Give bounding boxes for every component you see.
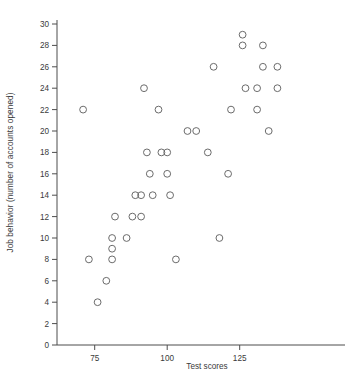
data-point-group	[80, 31, 281, 305]
data-point	[112, 213, 119, 220]
axes-group	[57, 20, 345, 345]
data-point	[80, 106, 87, 113]
y-tick-label: 16	[40, 170, 50, 179]
data-point	[164, 170, 171, 177]
y-tick-label: 6	[44, 277, 49, 286]
data-point	[141, 85, 148, 92]
data-point	[146, 170, 153, 177]
y-tick-label: 18	[40, 148, 50, 157]
data-point	[228, 106, 235, 113]
data-point	[204, 149, 211, 156]
x-axis-label: Test scores	[57, 362, 357, 371]
y-tick-label: 26	[40, 63, 50, 72]
data-point	[155, 106, 162, 113]
x-axis-label-text: Test scores	[186, 362, 227, 371]
data-point	[216, 235, 223, 242]
data-point	[144, 149, 151, 156]
data-point	[138, 213, 145, 220]
data-point	[167, 192, 174, 199]
data-point	[173, 256, 180, 263]
data-point	[149, 192, 156, 199]
data-point	[184, 128, 191, 135]
data-point	[109, 245, 116, 252]
y-tick-label: 10	[40, 234, 50, 243]
y-tick-group: 024681012141618202224262830	[40, 20, 57, 350]
scatter-plot-figure: Job behavior (number of accounts opened)…	[0, 0, 360, 389]
data-point	[254, 85, 261, 92]
data-point	[109, 235, 116, 242]
data-point	[109, 256, 116, 263]
y-tick-label: 30	[40, 20, 50, 29]
data-point	[242, 85, 249, 92]
data-point	[129, 213, 136, 220]
y-tick-label: 12	[40, 213, 50, 222]
data-point	[265, 128, 272, 135]
y-tick-label: 20	[40, 127, 50, 136]
data-point	[193, 128, 200, 135]
data-point	[210, 63, 217, 70]
data-point	[260, 63, 267, 70]
data-point	[94, 299, 101, 306]
data-point	[103, 277, 110, 284]
data-point	[260, 42, 267, 49]
data-point	[239, 31, 246, 38]
data-point	[239, 42, 246, 49]
y-tick-label: 8	[44, 255, 49, 264]
data-point	[123, 235, 130, 242]
data-point	[274, 63, 281, 70]
plot-canvas: 024681012141618202224262830 75100125	[0, 0, 360, 389]
data-point	[274, 85, 281, 92]
x-tick-group: 75100125	[90, 345, 247, 363]
y-tick-label: 22	[40, 106, 50, 115]
y-tick-label: 14	[40, 191, 50, 200]
y-tick-label: 28	[40, 41, 50, 50]
y-tick-label: 0	[44, 341, 49, 350]
y-tick-label: 4	[44, 298, 49, 307]
data-point	[254, 106, 261, 113]
y-tick-label: 24	[40, 84, 50, 93]
data-point	[86, 256, 93, 263]
data-point	[225, 170, 232, 177]
y-tick-label: 2	[44, 320, 49, 329]
